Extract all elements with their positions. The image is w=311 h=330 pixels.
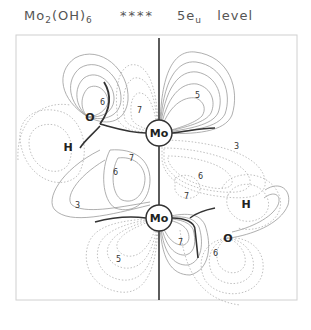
svg-text:6: 6 <box>100 98 105 107</box>
svg-text:Mo: Mo <box>150 127 169 140</box>
svg-text:7: 7 <box>129 154 134 163</box>
svg-text:7: 7 <box>184 192 189 201</box>
atom-mo-bottom: Mo <box>146 205 172 231</box>
svg-text:6: 6 <box>213 249 218 258</box>
plot-frame <box>16 35 297 300</box>
atom-h-right: H <box>241 198 250 211</box>
svg-text:6: 6 <box>113 168 118 177</box>
atom-o-left: O <box>85 111 94 124</box>
atom-o-right: O <box>223 232 232 245</box>
svg-text:6: 6 <box>198 172 203 181</box>
nodal-lines <box>80 38 215 300</box>
dotted-contours <box>18 65 281 305</box>
contour-plot: Mo Mo O H O H 6 7 5 3 7 6 6 7 3 7 5 6 <box>0 0 311 330</box>
svg-text:5: 5 <box>116 255 121 264</box>
atom-h-left: H <box>63 141 72 154</box>
atom-mo-top: Mo <box>146 120 172 146</box>
svg-text:Mo: Mo <box>150 212 169 225</box>
svg-text:7: 7 <box>178 238 183 247</box>
svg-text:3: 3 <box>75 201 80 210</box>
svg-text:3: 3 <box>234 142 239 151</box>
solid-contours <box>52 52 289 275</box>
svg-text:5: 5 <box>195 91 200 100</box>
svg-text:7: 7 <box>137 106 142 115</box>
